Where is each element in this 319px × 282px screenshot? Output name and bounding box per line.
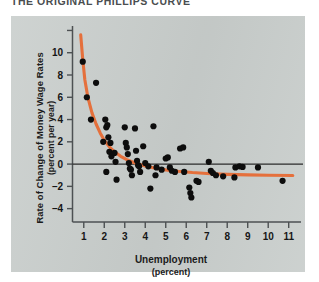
x-tick-label: 3 bbox=[122, 231, 128, 242]
data-point bbox=[231, 174, 237, 180]
data-point bbox=[152, 172, 158, 178]
data-point bbox=[125, 151, 131, 157]
data-point bbox=[107, 140, 113, 146]
data-point bbox=[172, 169, 178, 175]
x-tick-label: 9 bbox=[245, 231, 251, 242]
data-point bbox=[129, 172, 135, 178]
y-tick-label: 0 bbox=[57, 159, 63, 170]
x-axis: 1234567891011 bbox=[73, 222, 302, 242]
data-point bbox=[126, 160, 132, 166]
data-point bbox=[255, 164, 261, 170]
data-point bbox=[186, 184, 192, 190]
data-point bbox=[239, 164, 245, 170]
data-point bbox=[137, 169, 143, 175]
data-point bbox=[180, 144, 186, 150]
data-point bbox=[159, 167, 165, 173]
scatter-plot: 1086420–2–4 1234567891011 bbox=[11, 16, 305, 272]
figure-title: THE ORIGINAL PHILLIPS CURVE bbox=[11, 0, 301, 9]
y-tick-group: 1086420–2–4 bbox=[52, 30, 73, 214]
figure-root: THE ORIGINAL PHILLIPS CURVE Rate of Chan… bbox=[0, 0, 319, 282]
data-point bbox=[145, 163, 151, 169]
y-tick-label: 10 bbox=[52, 47, 64, 58]
data-point bbox=[88, 116, 94, 122]
y-tick-label: 6 bbox=[57, 92, 63, 103]
data-point bbox=[206, 159, 212, 165]
x-tick-label: 7 bbox=[204, 231, 210, 242]
data-point bbox=[136, 163, 142, 169]
x-tick-label: 10 bbox=[263, 231, 275, 242]
data-point bbox=[113, 177, 119, 183]
data-point bbox=[132, 125, 138, 131]
data-point bbox=[111, 150, 117, 156]
data-point bbox=[84, 94, 90, 100]
y-tick-label: 2 bbox=[57, 136, 63, 147]
data-point bbox=[188, 194, 194, 200]
data-point-group bbox=[80, 59, 286, 201]
x-tick-label: 4 bbox=[142, 231, 148, 242]
x-tick-label: 5 bbox=[163, 231, 169, 242]
x-tick-label: 11 bbox=[283, 231, 294, 242]
data-point bbox=[128, 167, 134, 173]
x-tick-label: 6 bbox=[183, 231, 189, 242]
data-point bbox=[150, 123, 156, 129]
data-point bbox=[103, 169, 109, 175]
figure-panel: Rate of Change of Money Wage Rates (perc… bbox=[11, 16, 305, 272]
y-tick-label: 4 bbox=[57, 114, 63, 125]
y-axis: 1086420–2–4 bbox=[52, 26, 73, 222]
data-point bbox=[195, 179, 201, 185]
y-tick-label: –4 bbox=[52, 203, 64, 214]
data-point bbox=[124, 144, 130, 150]
data-point bbox=[100, 139, 106, 145]
data-point bbox=[181, 169, 187, 175]
data-point bbox=[165, 154, 171, 160]
data-point bbox=[147, 185, 153, 191]
x-tick-label: 2 bbox=[101, 231, 107, 242]
data-point bbox=[104, 122, 110, 128]
data-point bbox=[122, 124, 128, 130]
data-point bbox=[133, 148, 139, 154]
data-point bbox=[220, 173, 226, 179]
x-tick-group: 1234567891011 bbox=[81, 222, 294, 242]
data-point bbox=[80, 59, 86, 65]
data-point bbox=[140, 143, 146, 149]
data-point bbox=[112, 159, 118, 165]
x-tick-label: 1 bbox=[81, 231, 87, 242]
data-point bbox=[102, 116, 108, 122]
x-tick-label: 8 bbox=[224, 231, 230, 242]
data-point bbox=[213, 172, 219, 178]
data-point bbox=[93, 80, 99, 86]
y-tick-label: –2 bbox=[52, 181, 64, 192]
data-point bbox=[279, 178, 285, 184]
data-point bbox=[105, 134, 111, 140]
y-tick-label: 8 bbox=[57, 70, 63, 81]
